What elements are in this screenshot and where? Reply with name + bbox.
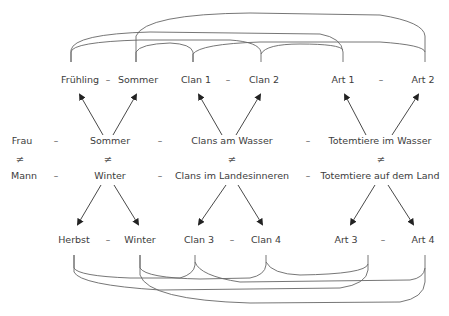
label-fruehling: Frühling: [61, 74, 99, 86]
dash-separator: –: [379, 75, 384, 85]
arc-clan4-art3: [266, 262, 368, 275]
arc-sommer-clan1: [136, 43, 193, 62]
dash-separator: –: [54, 171, 59, 181]
label-clan1: Clan 1: [181, 74, 211, 86]
label-totemtiere-land: Totemtiere auf dem Land: [320, 170, 439, 182]
label-art2: Art 2: [411, 74, 434, 86]
label-frau: Frau: [12, 135, 33, 147]
label-clans-landesinneren: Clans im Landesinneren: [175, 170, 289, 182]
dash-separator: –: [106, 235, 111, 245]
label-mann: Mann: [11, 170, 37, 182]
not-equal-icon: ≠: [16, 155, 24, 165]
dash-separator: –: [106, 75, 111, 85]
label-totemtiere-wasser: Totemtiere im Wasser: [329, 135, 432, 147]
label-winter-mid: Winter: [94, 170, 125, 182]
label-art1: Art 1: [331, 74, 354, 86]
label-art4: Art 4: [411, 234, 434, 246]
not-equal-icon: ≠: [104, 155, 112, 165]
label-clan4: Clan 4: [251, 234, 281, 246]
label-winter-bottom: Winter: [124, 234, 155, 246]
dash-separator: –: [54, 136, 59, 146]
arc-winter-clan4: [140, 255, 266, 279]
arc-clan2-art1: [261, 44, 343, 54]
label-clan3: Clan 3: [184, 234, 214, 246]
dash-separator: –: [158, 136, 163, 146]
dash-separator: –: [230, 235, 235, 245]
arc-winter-art4: [140, 255, 425, 303]
dash-separator: –: [306, 136, 311, 146]
label-clan2: Clan 2: [249, 74, 279, 86]
label-art3: Art 3: [334, 234, 357, 246]
dash-separator: –: [306, 171, 311, 181]
not-equal-icon: ≠: [377, 155, 385, 165]
label-sommer-top: Sommer: [118, 74, 158, 86]
dash-separator: –: [226, 75, 231, 85]
label-clans-am-wasser: Clans am Wasser: [191, 135, 272, 147]
dash-separator: –: [381, 235, 386, 245]
label-sommer-mid: Sommer: [90, 135, 130, 147]
dash-separator: –: [158, 171, 163, 181]
not-equal-icon: ≠: [228, 155, 236, 165]
arc-sommer-art2: [136, 13, 425, 62]
arc-herbst-art3: [74, 255, 368, 290]
arc-clan3-art4: [195, 262, 425, 282]
arc-clan1-art2: [193, 42, 425, 62]
label-herbst: Herbst: [58, 234, 90, 246]
arc-herbst-clan3: [74, 255, 195, 278]
